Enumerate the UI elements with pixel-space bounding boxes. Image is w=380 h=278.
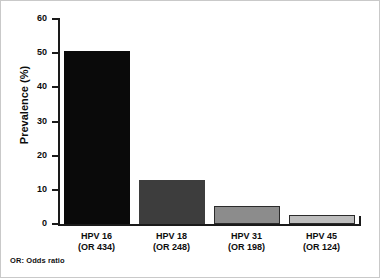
bar [64,51,130,224]
category-odds-ratio: (OR 434) [59,242,134,253]
y-tick-mark [52,189,59,191]
x-axis-end-tick [359,216,361,226]
chart-figure: Prevalence (%) 0102030405060 HPV 16(OR 4… [0,0,380,278]
x-axis-category-label: HPV 16(OR 434) [59,231,134,253]
category-odds-ratio: (OR 124) [284,242,359,253]
x-axis-category-label: HPV 18(OR 248) [134,231,209,253]
y-tick-mark [52,223,59,225]
x-axis-category-label: HPV 31(OR 198) [209,231,284,253]
bar [139,180,205,224]
category-name: HPV 18 [134,231,209,242]
bar [214,206,280,224]
y-tick-mark [52,86,59,88]
y-tick-label: 40 [7,82,47,91]
plot-area [59,19,359,224]
x-axis-category-label: HPV 45(OR 124) [284,231,359,253]
category-name: HPV 45 [284,231,359,242]
y-tick-label: 10 [7,185,47,194]
y-tick-mark [52,121,59,123]
y-tick-mark [52,52,59,54]
y-tick-mark [52,155,59,157]
y-tick-label: 60 [7,14,47,23]
y-tick-mark [52,18,59,20]
y-tick-label: 0 [7,219,47,228]
bar [289,215,355,224]
category-name: HPV 16 [59,231,134,242]
category-name: HPV 31 [209,231,284,242]
y-tick-label: 50 [7,48,47,57]
x-axis-line [58,224,361,226]
category-odds-ratio: (OR 248) [134,242,209,253]
y-tick-label: 30 [7,117,47,126]
chart-footnote: OR: Odds ratio [10,256,65,265]
y-tick-label: 20 [7,151,47,160]
category-odds-ratio: (OR 198) [209,242,284,253]
